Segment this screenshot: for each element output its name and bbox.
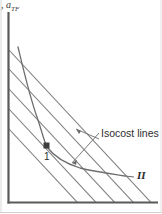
figure-canvas (0, 0, 162, 214)
isoquant-curve-label: II (137, 170, 146, 181)
axes-group (8, 12, 159, 204)
figure-frame (0, 0, 162, 213)
isocost-lines-label: Isocost lines (101, 128, 159, 139)
isoquant-isocost-figure: , aTF Isocost lines 1 II (0, 0, 162, 214)
tangency-point-marker (44, 143, 50, 149)
isocost-leader-lines (72, 129, 99, 165)
tangency-point-label: 1 (44, 152, 50, 162)
isocost-line-2 (9, 69, 162, 214)
curve-label-leader (125, 176, 134, 177)
y-axis-label-subscript: TF (11, 5, 19, 13)
y-axis-label: , aTF (1, 0, 19, 13)
isocost-line-4 (9, 109, 162, 214)
